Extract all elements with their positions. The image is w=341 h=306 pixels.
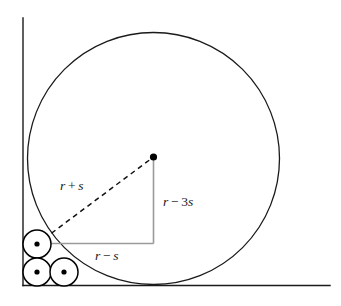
geometry-figure: r + sr − 3sr − s — [0, 0, 341, 306]
label-horizontal-leg: r − s — [95, 248, 119, 263]
dashed-hypotenuse — [37, 157, 154, 244]
label-vertical-leg: r − 3s — [163, 194, 193, 209]
label-hypotenuse: r + s — [60, 178, 84, 193]
small-circle-lower-left-center-dot — [34, 269, 39, 274]
small-circles-group — [23, 230, 78, 286]
small-circle-lower-right-center-dot — [61, 269, 66, 274]
dimension-labels-group: r + sr − 3sr − s — [60, 178, 193, 263]
small-circle-upper-left-center-dot — [34, 241, 39, 246]
axes-group — [23, 18, 330, 286]
large-circle-center-dot — [150, 153, 157, 160]
figure-canvas: r + sr − 3sr − s — [0, 0, 341, 306]
